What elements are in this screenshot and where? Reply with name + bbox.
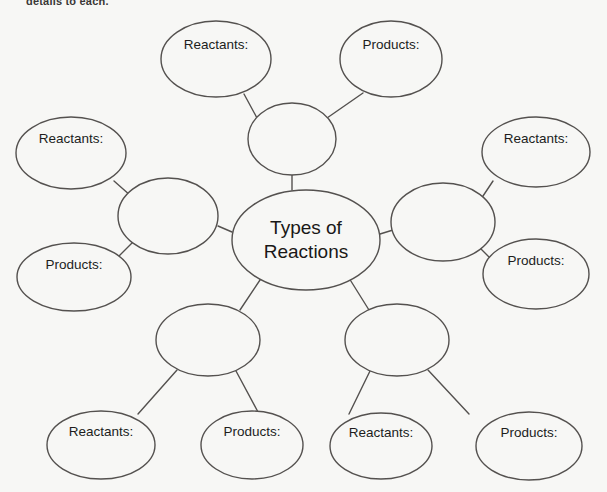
connector-left-hub-to-products xyxy=(119,243,132,256)
connector-br-hub-to-products xyxy=(428,370,469,414)
connector-top-hub-to-reactants xyxy=(244,94,257,118)
leaf-node-br-reactants-shape[interactable] xyxy=(330,413,432,479)
leaf-node-right-products-label: Products: xyxy=(507,253,564,268)
connector-bl-hub-to-reactants xyxy=(138,370,177,414)
hub-node-bottom-right[interactable] xyxy=(345,304,449,376)
leaf-node-right-products-shape[interactable] xyxy=(483,239,589,309)
leaf-node-left-products-shape[interactable] xyxy=(17,243,131,311)
leaf-node-bl-reactants-label: Reactants: xyxy=(69,424,134,439)
concept-map-diagram: Reactants:Products:Reactants:Products:Re… xyxy=(0,0,607,492)
worksheet-page: details to each. Reactants:Products:Reac… xyxy=(0,0,607,492)
center-node-label-line-2: Reactions xyxy=(264,241,349,262)
hub-node-top-shape[interactable] xyxy=(248,103,336,175)
connector-center-to-right xyxy=(380,230,393,234)
leaf-node-left-products[interactable]: Products: xyxy=(17,243,131,311)
leaf-node-top-reactants[interactable]: Reactants: xyxy=(161,21,271,97)
hub-node-bottom-left[interactable] xyxy=(156,304,260,376)
leaf-node-left-products-label: Products: xyxy=(45,257,102,272)
connector-br-hub-to-reactants xyxy=(349,371,370,414)
center-node-shape[interactable] xyxy=(232,190,380,290)
leaf-node-right-reactants-shape[interactable] xyxy=(482,117,590,187)
hub-node-left[interactable] xyxy=(118,178,218,254)
leaf-node-top-products-shape[interactable] xyxy=(340,21,442,97)
connector-center-to-bottom-right xyxy=(349,278,369,310)
leaf-node-right-products[interactable]: Products: xyxy=(483,239,589,309)
hub-node-right[interactable] xyxy=(391,183,495,261)
leaf-node-br-products[interactable]: Products: xyxy=(476,412,582,480)
leaf-node-left-reactants-shape[interactable] xyxy=(16,117,126,189)
center-node-label-line-1: Types of xyxy=(270,217,343,238)
leaf-node-br-reactants-label: Reactants: xyxy=(349,425,414,440)
connector-center-to-left xyxy=(218,226,232,232)
leaf-node-bl-products-label: Products: xyxy=(223,424,280,439)
leaf-node-bl-products[interactable]: Products: xyxy=(201,411,303,479)
leaf-node-top-products-label: Products: xyxy=(362,37,419,52)
leaf-node-br-products-label: Products: xyxy=(500,425,557,440)
leaf-node-top-reactants-shape[interactable] xyxy=(161,21,271,97)
hub-node-top[interactable] xyxy=(248,103,336,175)
nodes-group: Reactants:Products:Reactants:Products:Re… xyxy=(16,21,590,480)
leaf-node-right-reactants[interactable]: Reactants: xyxy=(482,117,590,187)
leaf-node-bl-products-shape[interactable] xyxy=(201,411,303,479)
hub-node-bottom-left-shape[interactable] xyxy=(156,304,260,376)
hub-node-bottom-right-shape[interactable] xyxy=(345,304,449,376)
leaf-node-br-reactants[interactable]: Reactants: xyxy=(330,413,432,479)
leaf-node-bl-reactants-shape[interactable] xyxy=(47,411,155,479)
leaf-node-left-reactants[interactable]: Reactants: xyxy=(16,117,126,189)
leaf-node-br-products-shape[interactable] xyxy=(476,412,582,480)
hub-node-left-shape[interactable] xyxy=(118,178,218,254)
leaf-node-bl-reactants[interactable]: Reactants: xyxy=(47,411,155,479)
connector-bl-hub-to-products xyxy=(236,371,258,412)
hub-node-right-shape[interactable] xyxy=(391,183,495,261)
leaf-node-top-products[interactable]: Products: xyxy=(340,21,442,97)
leaf-node-right-reactants-label: Reactants: xyxy=(504,131,569,146)
connector-top-hub-to-products xyxy=(327,93,363,118)
center-node[interactable]: Types ofReactions xyxy=(232,190,380,290)
connector-center-to-bottom-left xyxy=(240,277,262,310)
leaf-node-left-reactants-label: Reactants: xyxy=(39,131,104,146)
leaf-node-top-reactants-label: Reactants: xyxy=(184,37,249,52)
